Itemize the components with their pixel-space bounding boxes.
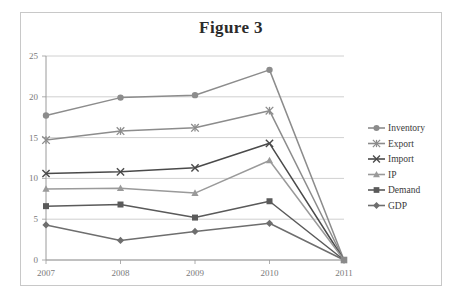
y-axis: 0510152025 [29, 51, 46, 265]
y-tick-label: 15 [29, 133, 39, 143]
legend-item-label: Export [388, 139, 414, 149]
legend-item-gdp[interactable]: GDP [368, 201, 407, 211]
x-tick-label: 2011 [335, 268, 353, 278]
legend-item-export[interactable]: Export [368, 139, 414, 149]
legend-item-inventory[interactable]: Inventory [368, 123, 425, 133]
legend-item-label: Inventory [388, 123, 425, 133]
y-tick-label: 10 [29, 173, 39, 183]
legend-item-label: Import [388, 154, 414, 164]
legend-item-label: IP [388, 170, 396, 180]
legend-item-import[interactable]: Import [368, 154, 414, 164]
x-tick-label: 2007 [37, 268, 56, 278]
figure-container: Figure 3 0510152025 20072008200920102011… [0, 0, 462, 305]
series-demand [43, 198, 344, 260]
y-tick-label: 0 [34, 255, 39, 265]
y-tick-label: 20 [29, 92, 39, 102]
x-tick-label: 2009 [186, 268, 205, 278]
legend-item-demand[interactable]: Demand [368, 185, 420, 195]
series-gdp [42, 220, 344, 260]
y-tick-label: 5 [34, 214, 39, 224]
legend-item-label: GDP [388, 201, 407, 211]
chart-legend: InventoryExportImportIPDemandGDP [368, 123, 425, 211]
x-tick-label: 2010 [261, 268, 280, 278]
line-chart: 0510152025 20072008200920102011 Inventor… [0, 0, 462, 305]
legend-item-label: Demand [388, 185, 420, 195]
x-axis: 20072008200920102011 [37, 260, 353, 278]
x-tick-label: 2008 [112, 268, 131, 278]
legend-item-ip[interactable]: IP [368, 170, 396, 180]
y-tick-label: 25 [29, 51, 39, 61]
series-lines [42, 67, 347, 264]
